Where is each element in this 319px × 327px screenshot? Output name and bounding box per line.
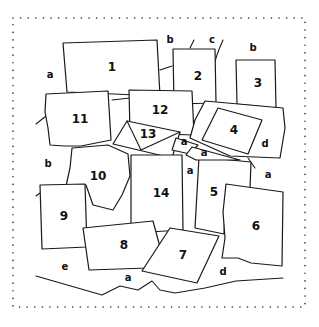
region-label-a: a — [181, 136, 188, 147]
piece-1[interactable]: 1 — [63, 40, 160, 96]
region-label-d: d — [261, 138, 268, 149]
region-label-b: b — [44, 158, 51, 169]
piece-9[interactable]: 9 — [40, 184, 87, 249]
piece-9-label: 9 — [60, 209, 68, 223]
piece-6-label: 6 — [252, 219, 260, 233]
region-label-a: a — [187, 165, 194, 176]
region-label-a: a — [201, 147, 208, 158]
piece-13-label: 13 — [140, 127, 157, 141]
diagram-canvas: 1 2 3 12 11 4 13 10 14 5 6 — [0, 0, 319, 327]
region-label-d: d — [219, 266, 226, 277]
region-label-b: b — [249, 42, 256, 53]
piece-8-label: 8 — [120, 238, 128, 252]
piece-5-label: 5 — [210, 185, 218, 199]
piece-2-label: 2 — [194, 69, 202, 83]
piece-11[interactable]: 11 — [45, 91, 111, 146]
piece-4-label: 4 — [230, 123, 238, 137]
region-label-c: c — [209, 34, 215, 45]
piece-12-label: 12 — [152, 103, 169, 117]
region-label-e: e — [62, 261, 69, 272]
piece-14[interactable]: 14 — [131, 155, 183, 233]
piece-1-label: 1 — [108, 60, 116, 74]
region-label-a: a — [47, 69, 54, 80]
region-label-a: a — [265, 169, 272, 180]
piece-10-label: 10 — [90, 169, 107, 183]
piece-7-label: 7 — [179, 248, 187, 262]
piece-3-label: 3 — [254, 76, 262, 90]
region-label-b: b — [166, 34, 173, 45]
piece-6[interactable]: 6 — [222, 184, 283, 266]
region-label-a: a — [125, 272, 132, 283]
piece-11-label: 11 — [72, 112, 89, 126]
piece-3[interactable]: 3 — [236, 60, 276, 108]
piece-14-label: 14 — [153, 186, 170, 200]
